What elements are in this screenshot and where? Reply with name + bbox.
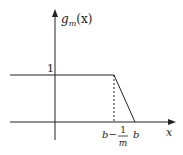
y-tick-label-1: 1 <box>47 62 54 75</box>
x-tick-frac-denominator: m <box>119 138 128 148</box>
y-axis-arrow-icon <box>52 9 58 17</box>
x-tick-b: b <box>133 129 139 140</box>
x-axis-arrow-icon <box>168 119 176 125</box>
x-axis-label: x <box>166 126 173 139</box>
x-tick-frac-numerator: 1 <box>120 125 126 135</box>
y-axis-label: gm(x) <box>61 12 92 28</box>
function-graph <box>10 75 135 122</box>
x-tick-b-minus: b− <box>102 129 117 140</box>
function-plot: gm(x) 1 b− 1 m b x <box>0 0 183 155</box>
